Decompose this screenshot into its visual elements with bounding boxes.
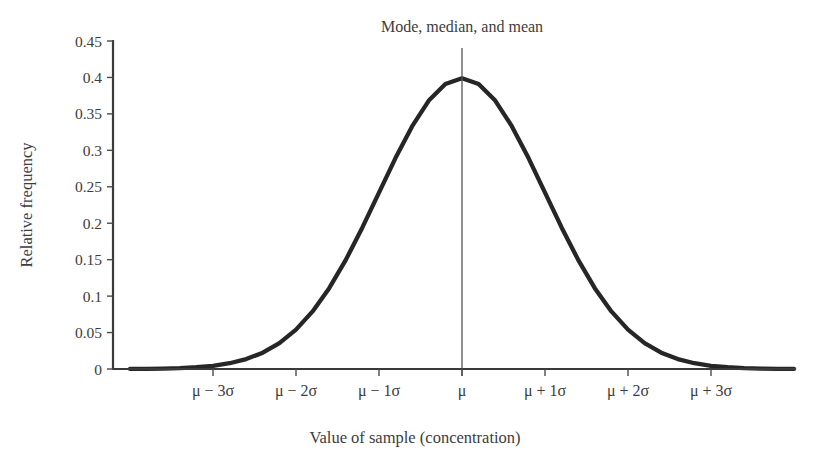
x-axis-tick-label: μ + 2σ xyxy=(607,382,650,400)
chart-canvas: 00.050.10.150.20.250.30.350.40.45 μ − 3σ… xyxy=(0,0,829,462)
y-axis-title: Relative frequency xyxy=(17,142,36,268)
y-axis-tick-label: 0.2 xyxy=(83,215,102,232)
mode-median-mean-annotation: Mode, median, and mean xyxy=(381,18,543,35)
x-axis-tick-label: μ − 1σ xyxy=(358,382,401,400)
x-axis-tick-label: μ − 2σ xyxy=(275,382,318,400)
x-axis-tick-labels: μ − 3σμ − 2σμ − 1σμμ + 1σμ + 2σμ + 3σ xyxy=(192,382,733,400)
x-axis-tick-label: μ + 1σ xyxy=(524,382,567,400)
y-axis-tick-label: 0.35 xyxy=(75,105,102,122)
y-axis-tick-label: 0.15 xyxy=(75,251,102,268)
y-axis-tick-labels: 00.050.10.150.20.250.30.350.40.45 xyxy=(75,33,102,378)
tick-labels: 00.050.10.150.20.250.30.350.40.45 μ − 3σ… xyxy=(75,33,733,401)
normal-distribution-figure: 00.050.10.150.20.250.30.350.40.45 μ − 3σ… xyxy=(0,0,829,462)
x-axis-tick-label: μ + 3σ xyxy=(690,382,733,400)
y-axis-tick-label: 0.3 xyxy=(83,142,103,159)
y-axis-tick-label: 0.05 xyxy=(75,324,102,341)
x-axis-tick-label: μ xyxy=(458,382,467,400)
axes xyxy=(107,41,795,376)
y-axis-tick-label: 0.1 xyxy=(83,288,102,305)
y-axis-tick-label: 0.4 xyxy=(83,69,103,86)
y-axis-tick-label: 0 xyxy=(94,361,102,378)
x-axis-title: Value of sample (concentration) xyxy=(309,428,520,447)
y-axis-tick-label: 0.45 xyxy=(75,33,102,50)
x-axis-tick-label: μ − 3σ xyxy=(192,382,235,400)
y-axis-tick-label: 0.25 xyxy=(75,178,102,195)
